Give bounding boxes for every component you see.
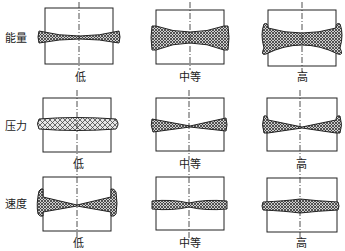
panel-energy-medium: [151, 2, 229, 70]
col-label-low: 低: [73, 234, 84, 250]
panel-speed-medium: [152, 166, 227, 238]
panel-pressure-medium: [151, 90, 227, 160]
weld-diagram-grid: [0, 0, 345, 251]
col-label-low: 低: [73, 155, 84, 171]
panel-pressure-high: [263, 90, 342, 160]
row-label-energy: 能量: [5, 29, 27, 45]
col-label-high: 高: [296, 234, 307, 250]
panel-energy-high: [262, 2, 342, 72]
panel-energy-low: [38, 2, 120, 70]
col-label-high: 高: [296, 155, 307, 171]
row-label-pressure: 压力: [5, 117, 27, 133]
col-label-medium: 中等: [179, 68, 201, 84]
col-label-high: 高: [297, 68, 308, 84]
col-label-medium: 中等: [179, 155, 201, 171]
panel-speed-high: [262, 166, 339, 238]
panel-speed-low: [37, 166, 117, 238]
panel-pressure-low: [38, 90, 119, 160]
col-label-medium: 中等: [179, 234, 201, 250]
col-label-low: 低: [75, 68, 86, 84]
row-label-speed: 速度: [5, 195, 27, 211]
